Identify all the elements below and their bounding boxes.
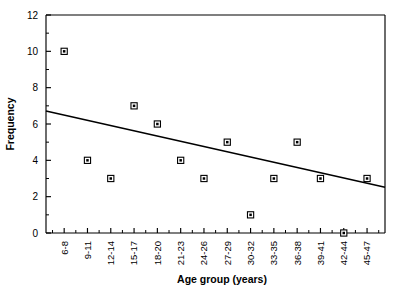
data-point-center — [273, 177, 276, 180]
y-axis-tick-labels: 024681012 — [27, 10, 39, 239]
data-point-center — [156, 123, 159, 126]
x-tick-label: 12-14 — [105, 241, 116, 265]
data-point — [201, 175, 207, 181]
scatter-chart-figure: 024681012 6-89-1112-1415-1718-2021-2324-… — [0, 0, 409, 295]
y-tick-label: 12 — [27, 10, 39, 21]
data-point-center — [110, 177, 113, 180]
data-point — [317, 175, 323, 181]
data-points-group — [61, 48, 370, 236]
x-axis-title: Age group (years) — [177, 273, 267, 285]
data-point — [178, 157, 184, 163]
x-axis-tick-labels: 6-89-1112-1415-1718-2021-2324-2627-2930-… — [59, 241, 373, 265]
chart-canvas: 024681012 6-89-1112-1415-1718-2021-2324-… — [0, 0, 409, 295]
x-tick-label: 33-35 — [268, 241, 279, 265]
data-point — [131, 103, 137, 109]
trend-line — [46, 111, 385, 187]
data-point-center — [249, 214, 252, 217]
data-point — [154, 121, 160, 127]
y-tick-label: 6 — [32, 119, 38, 130]
data-point-center — [86, 159, 89, 162]
data-point — [341, 230, 347, 236]
data-point — [61, 48, 67, 54]
data-point-center — [203, 177, 206, 180]
x-tick-label: 18-20 — [152, 241, 163, 265]
data-point-center — [319, 177, 322, 180]
plot-frame — [46, 15, 385, 233]
x-tick-label: 24-26 — [198, 241, 209, 265]
x-tick-label: 27-29 — [222, 241, 233, 265]
y-tick-label: 2 — [32, 191, 38, 202]
x-tick-label: 45-47 — [361, 241, 372, 265]
trend-line-group — [46, 111, 385, 187]
x-tick-label: 42-44 — [338, 241, 349, 265]
y-tick-label: 0 — [32, 228, 38, 239]
x-tick-label: 6-8 — [59, 241, 70, 255]
data-point-center — [296, 141, 299, 144]
data-point-center — [63, 50, 66, 53]
data-point — [224, 139, 230, 145]
data-point — [84, 157, 90, 163]
data-point-center — [226, 141, 229, 144]
x-tick-label: 30-32 — [245, 241, 256, 265]
x-tick-label: 36-38 — [292, 241, 303, 265]
data-point — [108, 175, 114, 181]
y-axis-ticks — [46, 15, 51, 233]
data-point-center — [366, 177, 369, 180]
y-tick-label: 10 — [27, 46, 39, 57]
x-tick-label: 39-41 — [315, 241, 326, 265]
data-point — [294, 139, 300, 145]
y-tick-label: 4 — [32, 155, 38, 166]
x-tick-label: 15-17 — [128, 241, 139, 265]
data-point — [364, 175, 370, 181]
data-point — [247, 212, 253, 218]
data-point-center — [343, 232, 346, 235]
data-point-center — [179, 159, 182, 162]
x-tick-label: 21-23 — [175, 241, 186, 265]
x-tick-label: 9-11 — [82, 241, 93, 259]
y-axis-title: Frequency — [4, 97, 16, 150]
data-point — [271, 175, 277, 181]
data-point-center — [133, 105, 136, 108]
y-tick-label: 8 — [32, 82, 38, 93]
